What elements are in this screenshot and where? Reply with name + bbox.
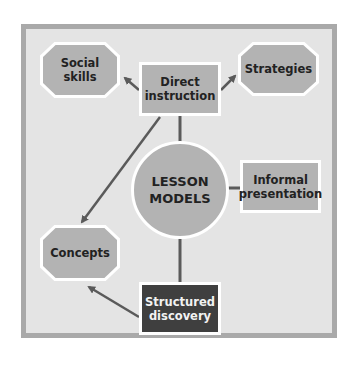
- lesson-models-line2: MODELS: [149, 191, 210, 206]
- strategies-label: Strategies: [245, 62, 312, 76]
- direct-instruction-line2: instruction: [145, 89, 216, 103]
- structured-discovery-line2: discovery: [149, 309, 211, 323]
- social-skills-line2: skills: [63, 70, 96, 84]
- direct-instruction-line1: Direct: [160, 75, 199, 89]
- node-direct-instruction: Directinstruction: [139, 62, 221, 116]
- arrow-to-social-skills: [125, 78, 139, 90]
- node-social-skills: Socialskills: [40, 42, 120, 98]
- node-informal-presentation: Informalpresentation: [240, 160, 321, 213]
- node-strategies: Strategies: [238, 42, 319, 96]
- informal-presentation-line2: presentation: [239, 187, 322, 201]
- arrow-to-strategies: [221, 76, 235, 90]
- node-concepts: Concepts: [40, 225, 120, 281]
- node-structured-discovery: Structureddiscovery: [139, 282, 221, 335]
- arrow-structured-to-concepts: [89, 287, 139, 317]
- social-skills-line1: Social: [61, 56, 100, 70]
- structured-discovery-line1: Structured: [145, 295, 215, 309]
- node-lesson-models: LESSONMODELS: [131, 141, 229, 239]
- informal-presentation-line1: Informal: [253, 173, 308, 187]
- lesson-models-line1: LESSON: [151, 174, 208, 189]
- concepts-label: Concepts: [50, 246, 110, 260]
